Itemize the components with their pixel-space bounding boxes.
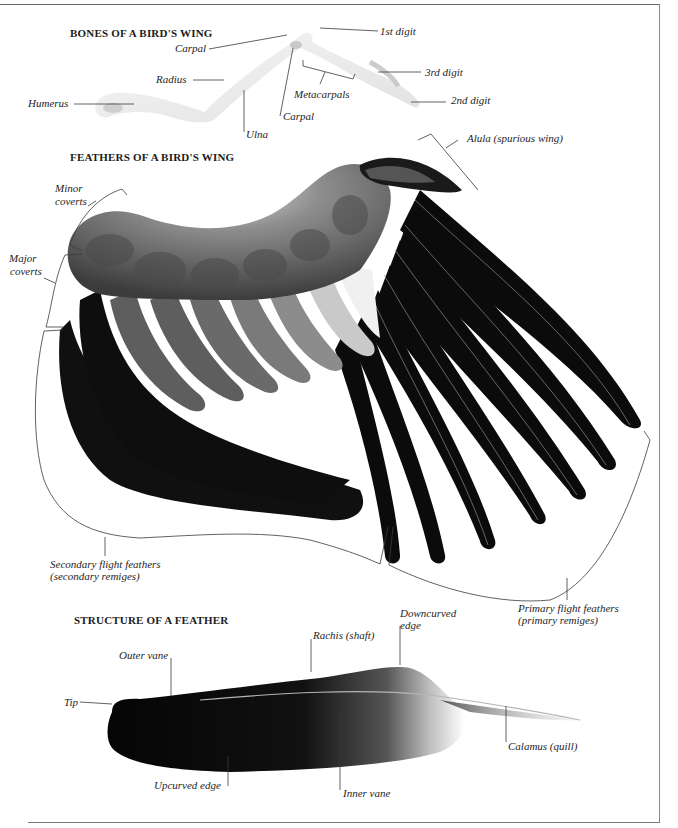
label-carpal-upper: Carpal <box>175 42 206 54</box>
label-secondary-flight-feathers: Secondary flight feathers (secondary rem… <box>50 558 161 582</box>
label-outer-vane: Outer vane <box>119 649 168 661</box>
label-major-coverts: Major coverts <box>9 252 42 278</box>
label-major-coverts-line1: Major <box>9 252 42 265</box>
label-3rd-digit: 3rd digit <box>425 66 463 78</box>
structure-heading: STRUCTURE OF A FEATHER <box>74 614 228 626</box>
label-rachis: Rachis (shaft) <box>313 629 374 641</box>
label-minor-coverts: Minor coverts <box>55 182 87 208</box>
label-primary-line1: Primary flight feathers <box>518 602 619 614</box>
feathers-heading: FEATHERS OF A BIRD'S WING <box>70 151 234 163</box>
label-calamus: Calamus (quill) <box>508 740 577 752</box>
wing-bones-illustration <box>95 33 420 123</box>
label-carpal-lower: Carpal <box>283 110 314 122</box>
label-1st-digit: 1st digit <box>380 25 416 37</box>
label-primary-line2: (primary remiges) <box>518 614 619 626</box>
label-alula: Alula (spurious wing) <box>467 132 563 144</box>
label-tip: Tip <box>64 696 78 708</box>
label-2nd-digit: 2nd digit <box>451 94 490 106</box>
label-secondary-line1: Secondary flight feathers <box>50 558 161 570</box>
label-inner-vane: Inner vane <box>343 787 390 799</box>
label-downcurved-line2: edge <box>400 619 456 631</box>
label-radius: Radius <box>156 73 187 85</box>
label-downcurved-line1: Downcurved <box>400 607 456 619</box>
label-downcurved-edge: Downcurved edge <box>400 607 456 631</box>
label-secondary-line2: (secondary remiges) <box>50 570 161 582</box>
label-metacarpals: Metacarpals <box>294 88 350 100</box>
label-ulna: Ulna <box>246 128 268 140</box>
label-upcurved-edge: Upcurved edge <box>154 779 221 791</box>
label-humerus: Humerus <box>28 97 68 109</box>
label-minor-coverts-line2: coverts <box>55 195 87 208</box>
feather-structure-illustration <box>108 667 586 772</box>
label-primary-flight-feathers: Primary flight feathers (primary remiges… <box>518 602 619 626</box>
label-minor-coverts-line1: Minor <box>55 182 87 195</box>
wing-feathers-illustration <box>59 158 641 564</box>
bones-heading: BONES OF A BIRD'S WING <box>70 27 213 39</box>
illustration-canvas <box>0 0 678 828</box>
label-major-coverts-line2: coverts <box>9 265 42 278</box>
